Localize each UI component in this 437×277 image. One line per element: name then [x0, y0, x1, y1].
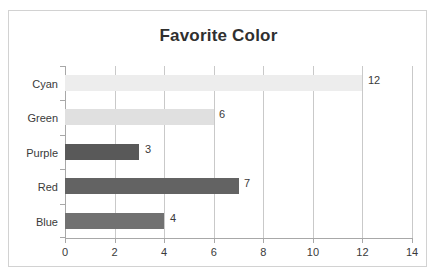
gridline-10 [313, 66, 314, 238]
gridline-6 [214, 66, 215, 238]
y-axis-label-green: Green [6, 112, 58, 124]
x-axis-label-0: 0 [50, 246, 80, 258]
x-tick-mark [362, 238, 363, 243]
x-tick-mark [313, 238, 314, 243]
x-tick-mark [263, 238, 264, 243]
bar-blue[interactable] [65, 213, 164, 229]
bar-value-purple: 3 [145, 143, 151, 155]
x-tick-mark [115, 238, 116, 243]
plot-area: 12 6 3 7 4 [65, 66, 412, 238]
chart-title: Favorite Color [0, 26, 437, 46]
gridline-8 [263, 66, 264, 238]
x-axis-label-12: 12 [347, 246, 377, 258]
bar-red[interactable] [65, 178, 239, 194]
bar-value-blue: 4 [170, 212, 176, 224]
chart-screenshot: Favorite Color Cyan Green Purple Red Blu… [0, 0, 437, 277]
x-tick-mark [65, 238, 66, 243]
gridline-12 [362, 66, 363, 238]
x-axis-label-8: 8 [248, 246, 278, 258]
gridline-4 [164, 66, 165, 238]
x-axis-label-10: 10 [298, 246, 328, 258]
bar-value-green: 6 [219, 108, 225, 120]
y-axis-label-red: Red [6, 181, 58, 193]
x-tick-mark [412, 238, 413, 243]
y-axis-category-labels: Cyan Green Purple Red Blue [6, 66, 58, 238]
y-axis-label-cyan: Cyan [6, 78, 58, 90]
bar-purple[interactable] [65, 144, 139, 160]
x-axis-label-2: 2 [100, 246, 130, 258]
bar-green[interactable] [65, 109, 214, 125]
x-axis-label-14: 14 [397, 246, 427, 258]
x-tick-mark [214, 238, 215, 243]
gridline-14 [412, 66, 413, 238]
bar-value-cyan: 12 [368, 74, 380, 86]
x-tick-mark [164, 238, 165, 243]
x-axis-label-6: 6 [199, 246, 229, 258]
bar-value-red: 7 [244, 177, 250, 189]
x-axis-label-4: 4 [149, 246, 179, 258]
y-axis-label-blue: Blue [6, 216, 58, 228]
x-axis-line [65, 238, 413, 239]
y-axis-label-purple: Purple [6, 147, 58, 159]
bar-cyan[interactable] [65, 75, 362, 91]
